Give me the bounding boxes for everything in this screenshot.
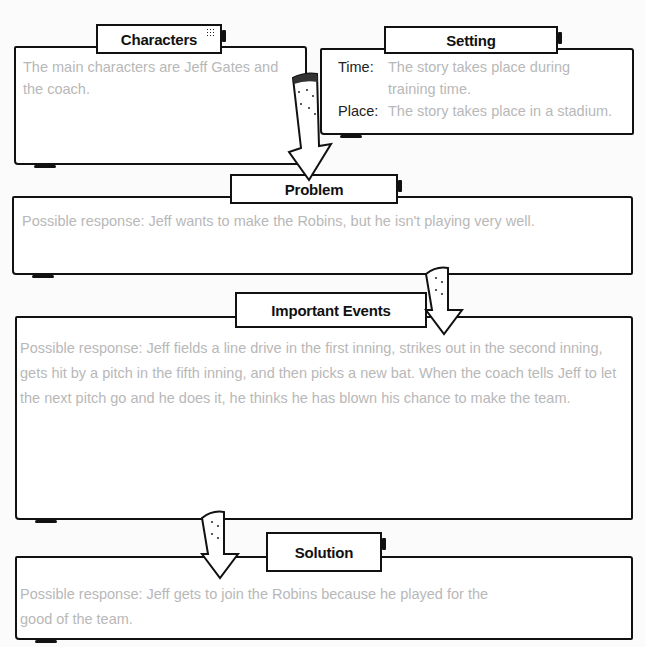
- down-arrow-icon: [285, 68, 337, 188]
- stipple-decoration: [206, 28, 216, 38]
- down-arrow-icon: [196, 508, 246, 580]
- solution-text[interactable]: Possible response: Jeff gets to join the…: [20, 582, 500, 632]
- important-events-label: Important Events: [235, 292, 427, 328]
- problem-text[interactable]: Possible response: Jeff wants to make th…: [22, 210, 622, 232]
- characters-label-text: Characters: [121, 31, 197, 48]
- down-arrow-icon: [420, 264, 470, 336]
- setting-place-value[interactable]: The story takes place in a stadium.: [388, 100, 638, 122]
- tab-decoration: [398, 180, 402, 192]
- setting-time-key: Time:: [338, 56, 374, 78]
- tab-decoration: [222, 30, 226, 42]
- setting-time-value[interactable]: The story takes place during training ti…: [388, 56, 618, 100]
- characters-text[interactable]: The main characters are Jeff Gates and t…: [23, 56, 283, 100]
- setting-label: Setting: [384, 26, 558, 54]
- setting-label-text: Setting: [446, 32, 495, 49]
- characters-label: Characters: [96, 24, 222, 54]
- problem-box: [12, 196, 633, 275]
- important-events-label-text: Important Events: [271, 302, 390, 319]
- tab-decoration: [382, 538, 386, 550]
- setting-place-key: Place:: [338, 100, 378, 122]
- tab-decoration: [558, 32, 562, 44]
- important-events-text[interactable]: Possible response: Jeff fields a line dr…: [20, 336, 630, 411]
- solution-label-text: Solution: [295, 544, 353, 561]
- solution-label: Solution: [266, 532, 382, 572]
